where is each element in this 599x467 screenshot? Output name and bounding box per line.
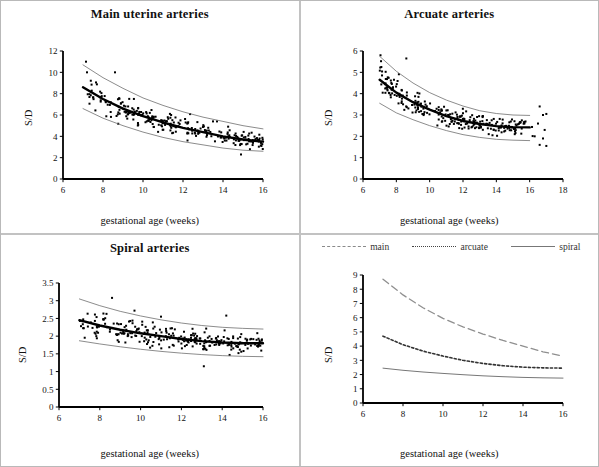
- svg-text:0: 0: [353, 174, 358, 184]
- svg-text:16: 16: [259, 413, 269, 423]
- svg-text:3: 3: [353, 110, 358, 120]
- svg-text:0: 0: [353, 398, 358, 408]
- svg-text:14: 14: [218, 413, 228, 423]
- x-axis-label-spiral: gestational age (weeks): [1, 448, 299, 459]
- svg-text:12: 12: [177, 413, 186, 423]
- plot-area-comparison: 01234567896810121416: [301, 235, 599, 467]
- plot-area-arcuate: 0123456681012141618: [301, 1, 599, 233]
- svg-chart-main: 0246810126810121416: [1, 1, 300, 234]
- y-axis-label-arcuate: S/D: [323, 110, 334, 126]
- svg-text:16: 16: [558, 409, 568, 419]
- svg-text:10: 10: [49, 68, 59, 78]
- svg-chart-arcuate: 0123456681012141618: [301, 1, 599, 234]
- svg-text:12: 12: [179, 185, 188, 195]
- svg-chart-spiral: 00.511.522.533.56810121416: [1, 235, 300, 467]
- svg-text:2: 2: [353, 132, 358, 142]
- svg-text:10: 10: [425, 185, 435, 195]
- svg-text:10: 10: [139, 185, 149, 195]
- svg-text:6: 6: [57, 413, 62, 423]
- svg-text:0.5: 0.5: [42, 384, 54, 394]
- svg-text:12: 12: [458, 185, 467, 195]
- svg-text:0: 0: [49, 402, 54, 412]
- svg-text:8: 8: [53, 89, 58, 99]
- x-axis-label-arcuate: gestational age (weeks): [301, 215, 599, 226]
- svg-text:2: 2: [49, 331, 54, 341]
- svg-text:6: 6: [360, 409, 365, 419]
- svg-text:1: 1: [49, 366, 54, 376]
- svg-text:3.5: 3.5: [42, 278, 54, 288]
- svg-text:16: 16: [525, 185, 535, 195]
- svg-text:2: 2: [353, 369, 358, 379]
- svg-text:5: 5: [353, 68, 358, 78]
- y-axis-label-main: S/D: [23, 110, 34, 126]
- svg-text:4: 4: [53, 132, 58, 142]
- svg-text:10: 10: [438, 409, 448, 419]
- panel-main-uterine-arteries: Main uterine arteries 024681012681012141…: [1, 1, 300, 234]
- svg-text:5: 5: [353, 327, 358, 337]
- svg-text:8: 8: [400, 409, 405, 419]
- svg-text:2: 2: [53, 153, 58, 163]
- svg-text:8: 8: [101, 185, 106, 195]
- svg-text:1.5: 1.5: [42, 349, 54, 359]
- svg-text:6: 6: [353, 312, 358, 322]
- panel-spiral-arteries: Spiral arteries 00.511.522.533.568101214…: [1, 234, 300, 467]
- svg-text:18: 18: [558, 185, 568, 195]
- svg-text:0: 0: [53, 174, 58, 184]
- plot-area-spiral: 00.511.522.533.56810121416: [1, 235, 299, 467]
- svg-text:14: 14: [219, 185, 229, 195]
- svg-text:6: 6: [53, 110, 58, 120]
- panel-arcuate-arteries: Arcuate arteries 0123456681012141618 S/D…: [300, 1, 599, 234]
- svg-text:16: 16: [259, 185, 269, 195]
- svg-text:6: 6: [61, 185, 66, 195]
- svg-text:8: 8: [98, 413, 103, 423]
- svg-text:14: 14: [518, 409, 528, 419]
- x-axis-label-comparison: gestational age (weeks): [301, 448, 599, 459]
- svg-text:6: 6: [360, 185, 365, 195]
- svg-text:6: 6: [353, 46, 358, 56]
- svg-chart-comparison: 01234567896810121416: [301, 235, 599, 467]
- svg-text:3: 3: [353, 355, 358, 365]
- panel-comparison: main arcuate spiral 01234567896810121416…: [300, 234, 599, 467]
- svg-text:4: 4: [353, 89, 358, 99]
- figure-container: Main uterine arteries 024681012681012141…: [0, 0, 599, 467]
- x-axis-label-main: gestational age (weeks): [1, 215, 299, 226]
- svg-text:1: 1: [353, 384, 358, 394]
- svg-text:7: 7: [353, 298, 358, 308]
- svg-text:8: 8: [353, 284, 358, 294]
- svg-text:1: 1: [353, 153, 358, 163]
- svg-text:10: 10: [136, 413, 146, 423]
- svg-text:8: 8: [394, 185, 399, 195]
- svg-text:4: 4: [353, 341, 358, 351]
- plot-area-main: 0246810126810121416: [1, 1, 299, 233]
- panel-grid: Main uterine arteries 024681012681012141…: [1, 1, 598, 466]
- y-axis-label-comparison: S/D: [323, 346, 334, 362]
- svg-text:2.5: 2.5: [42, 313, 54, 323]
- svg-text:9: 9: [353, 270, 358, 280]
- svg-text:12: 12: [478, 409, 487, 419]
- svg-text:12: 12: [49, 46, 58, 56]
- svg-text:14: 14: [491, 185, 501, 195]
- svg-text:3: 3: [49, 296, 54, 306]
- y-axis-label-spiral: S/D: [17, 346, 28, 362]
